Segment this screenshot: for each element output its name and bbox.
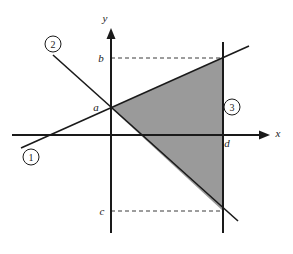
callout-line-1: 1	[23, 149, 39, 165]
callout-label-1: 1	[29, 152, 34, 163]
figure-container: x y a b c d 1 2 3	[0, 0, 293, 254]
callout-line-3: 3	[224, 99, 240, 115]
callout-label-3: 3	[230, 102, 235, 113]
y-axis-arrowhead	[107, 28, 116, 39]
y-axis-label: y	[102, 12, 108, 24]
callout-line-2: 2	[45, 36, 61, 52]
x-axis-arrowhead	[259, 131, 270, 140]
y-axis	[107, 28, 116, 233]
x-axis-label: x	[275, 127, 281, 139]
point-label-d: d	[224, 137, 230, 149]
point-label-c: c	[100, 205, 105, 217]
point-label-b: b	[98, 52, 104, 64]
coordinate-plane-figure: x y a b c d 1 2 3	[0, 0, 293, 254]
callout-label-2: 2	[51, 39, 56, 50]
point-label-a: a	[93, 101, 99, 113]
